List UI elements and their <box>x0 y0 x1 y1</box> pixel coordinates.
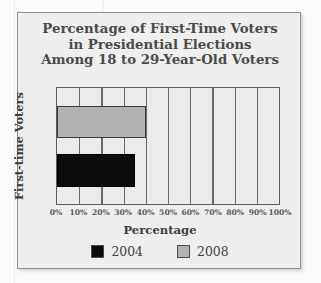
x-tick-20%: 20% <box>92 208 110 217</box>
chart-title-line-3: Among 18 to 29-Year-Old Voters <box>18 52 302 68</box>
legend-item-2004: 2004 <box>91 244 143 259</box>
x-tick-90%: 90% <box>249 208 267 217</box>
gridline-40 <box>146 88 147 204</box>
gridline-90 <box>257 88 258 204</box>
x-axis-label: Percentage <box>18 223 302 237</box>
legend-label-2004: 2004 <box>111 244 143 259</box>
gridline-70 <box>212 88 213 204</box>
bar-2008 <box>57 106 146 138</box>
x-tick-10%: 10% <box>69 208 87 217</box>
x-axis-tick-labels: 0%10%20%30%40%50%60%70%80%90%100% <box>56 208 280 220</box>
chart-title-line-1: Percentage of First-Time Voters <box>18 21 302 37</box>
plot-area <box>56 87 280 205</box>
gridline-80 <box>235 88 236 204</box>
gridline-60 <box>190 88 191 204</box>
x-tick-0%: 0% <box>50 208 63 217</box>
legend-item-2008: 2008 <box>177 244 229 259</box>
x-tick-100%: 100% <box>268 208 291 217</box>
bar-2004 <box>57 154 135 187</box>
y-axis-label: First-time Voters <box>12 87 28 205</box>
x-tick-40%: 40% <box>137 208 155 217</box>
x-tick-70%: 70% <box>204 208 222 217</box>
legend-swatch-2004 <box>91 245 104 258</box>
figure-page: Percentage of First-Time Voters in Presi… <box>0 0 321 283</box>
chart-title: Percentage of First-Time Voters in Presi… <box>18 21 302 68</box>
legend-label-2008: 2008 <box>197 244 229 259</box>
x-tick-50%: 50% <box>159 208 177 217</box>
x-tick-30%: 30% <box>114 208 132 217</box>
chart-title-line-2: in Presidential Elections <box>18 37 302 53</box>
chart-frame: Percentage of First-Time Voters in Presi… <box>17 12 301 269</box>
x-tick-60%: 60% <box>181 208 199 217</box>
gridline-50 <box>168 88 169 204</box>
legend-swatch-2008 <box>177 245 190 258</box>
chart-legend: 20042008 <box>18 244 302 259</box>
x-tick-80%: 80% <box>226 208 244 217</box>
